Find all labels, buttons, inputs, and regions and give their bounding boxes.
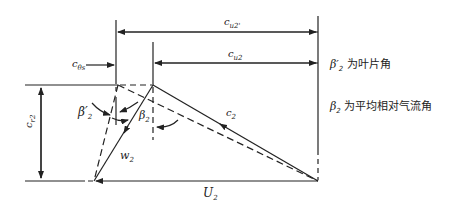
label-cu2-inf: cu2' bbox=[224, 17, 241, 30]
label-w2: w2 bbox=[120, 150, 134, 164]
label-cr2: cr2 bbox=[24, 115, 37, 128]
beta2-arc bbox=[112, 118, 128, 121]
legend-blade-angle: β′2 为叶片角 bbox=[330, 55, 391, 73]
label-cu2: cu2 bbox=[228, 49, 243, 62]
c2-vector bbox=[153, 85, 318, 181]
label-u2: U2 bbox=[203, 187, 218, 202]
w2-vector bbox=[94, 85, 153, 181]
label-slip: cθs bbox=[72, 59, 85, 72]
w2-inf-dashed bbox=[94, 85, 118, 181]
right-angle-arc bbox=[157, 120, 178, 127]
legend-mean-flow-angle: β2 为平均相对气流角 bbox=[330, 97, 432, 115]
label-beta2-prime: β′2 bbox=[78, 106, 92, 121]
label-beta2: β2 bbox=[139, 110, 150, 124]
beta2-prime-arc bbox=[92, 103, 110, 115]
c2-inf-dashed bbox=[118, 85, 318, 181]
label-c2: c2 bbox=[226, 108, 236, 121]
